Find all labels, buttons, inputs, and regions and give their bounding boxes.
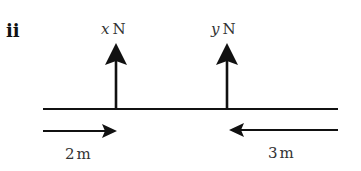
force-y-label: yN xyxy=(210,20,236,38)
beam-force-diagram: ii xN yN 2m 3m xyxy=(0,0,361,171)
distance-left-value: 2 xyxy=(65,145,75,163)
force-y-arrow xyxy=(216,43,238,108)
force-x-arrow xyxy=(105,43,127,108)
force-x-var: x xyxy=(101,20,110,38)
force-x-unit: N xyxy=(112,20,125,38)
distance-left-unit: m xyxy=(77,145,91,163)
force-y-var: y xyxy=(210,20,220,38)
distance-right-unit: m xyxy=(280,144,294,162)
distance-left-label: 2m xyxy=(65,145,91,163)
distance-right-value: 3 xyxy=(268,144,278,162)
distance-right-arrow xyxy=(229,123,338,137)
part-label: ii xyxy=(6,20,20,41)
force-y-unit: N xyxy=(222,20,235,38)
distance-left-arrow xyxy=(43,124,117,138)
force-x-label: xN xyxy=(101,20,126,38)
distance-right-label: 3m xyxy=(268,144,294,162)
